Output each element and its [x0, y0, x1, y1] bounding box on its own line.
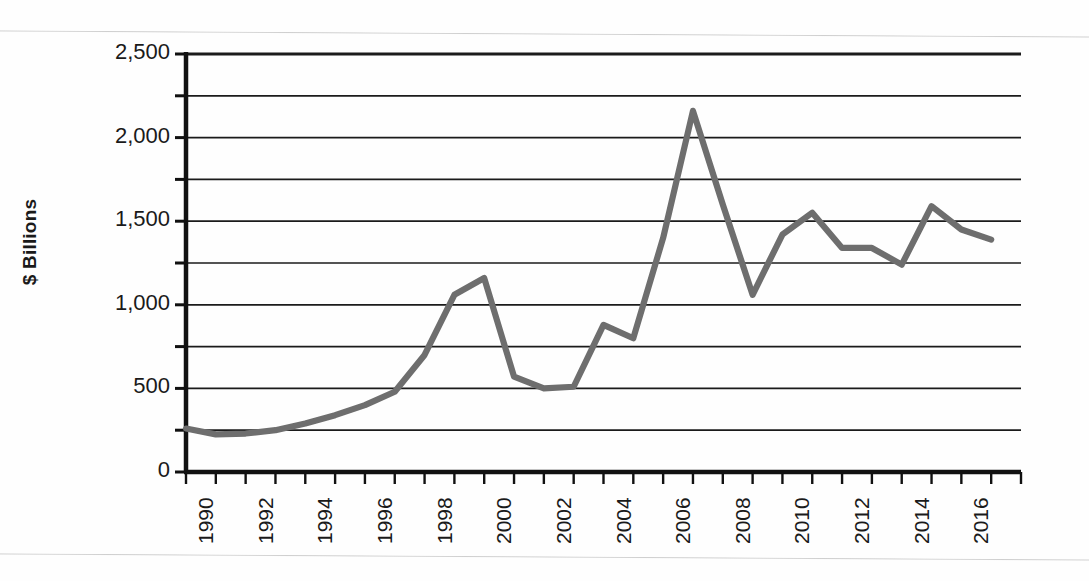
x-tick-label: 2004 [612, 497, 636, 544]
x-tick-label: 2000 [492, 497, 516, 544]
x-tick-label: 2014 [910, 497, 934, 544]
data-series-group [186, 111, 991, 435]
chart-page: $ Billions 05001,0001,5002,0002,500 1990… [0, 0, 1089, 581]
x-tick-label: 2012 [850, 497, 874, 544]
x-tick-label: 2010 [790, 497, 814, 544]
x-tick-label: 2002 [552, 497, 576, 544]
y-tick-label: 1,500 [40, 206, 170, 232]
data-line-series-value [186, 111, 991, 435]
x-tick-label: 1998 [433, 497, 457, 544]
y-tick-label: 1,000 [40, 290, 170, 316]
x-tick-label: 1992 [254, 497, 278, 544]
line-chart: $ Billions 05001,0001,5002,0002,500 1990… [0, 0, 1089, 581]
x-tick-label: 2016 [969, 497, 993, 544]
x-tick-label: 1994 [313, 497, 337, 544]
x-tick-label: 2008 [731, 497, 755, 544]
y-tick-label: 2,000 [40, 123, 170, 149]
x-tick-label: 2006 [671, 497, 695, 544]
x-tick-label: 1996 [373, 497, 397, 544]
gridlines-group [186, 54, 1021, 430]
y-tick-label: 2,500 [40, 39, 170, 65]
x-tick-label: 1990 [194, 497, 218, 544]
y-tick-label: 0 [40, 457, 170, 483]
y-tick-label: 500 [40, 373, 170, 399]
